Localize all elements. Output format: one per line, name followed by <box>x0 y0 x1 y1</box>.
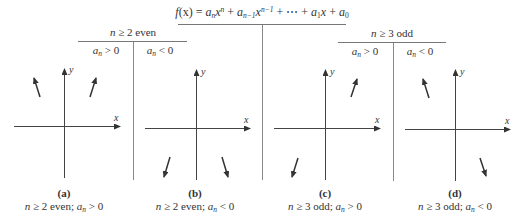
panel-c-letter: (c) <box>319 187 331 199</box>
panel-d-letter: (d) <box>448 187 461 199</box>
panel-a-letter: (a) <box>58 187 71 199</box>
branch-header-even: n ≥ 2 even <box>110 26 156 38</box>
panel-d-x-label: x <box>505 115 509 126</box>
sub-label-odd-pos: an > 0 <box>352 45 378 59</box>
panel-a-x-label: x <box>114 112 118 123</box>
function-formula: f(x) = anxn + an−1xn−1 + ⋯ + a1x + a0 <box>175 5 348 20</box>
panel-a-axes <box>14 69 120 178</box>
branch-header-odd: n ≥ 3 odd <box>371 27 413 39</box>
panel-d-axes <box>405 70 510 181</box>
panel-b-x-label: x <box>244 114 248 125</box>
panel-d-y-label: y <box>460 66 464 77</box>
panel-d-caption: n ≥ 3 odd; an < 0 <box>418 200 492 214</box>
sub-label-even-neg: an < 0 <box>147 44 173 58</box>
panel-a-y-label: y <box>69 64 73 75</box>
panel-c-x-label: x <box>375 114 379 125</box>
sub-label-even-pos: an > 0 <box>93 44 119 58</box>
panel-a-caption: n ≥ 2 even; an > 0 <box>25 200 103 214</box>
panel-b-letter: (b) <box>188 187 201 199</box>
panel-c-axes <box>274 70 380 180</box>
diagram-graphics <box>0 0 520 219</box>
panel-c-y-label: y <box>330 66 334 77</box>
panel-b-caption: n ≥ 2 even; an < 0 <box>156 200 234 214</box>
panel-c-caption: n ≥ 3 odd; an > 0 <box>288 200 362 214</box>
panel-d-end-arrows <box>423 79 486 176</box>
panel-b-y-label: y <box>201 66 205 77</box>
panel-b-axes <box>145 70 250 180</box>
sub-label-odd-neg: an < 0 <box>407 45 433 59</box>
